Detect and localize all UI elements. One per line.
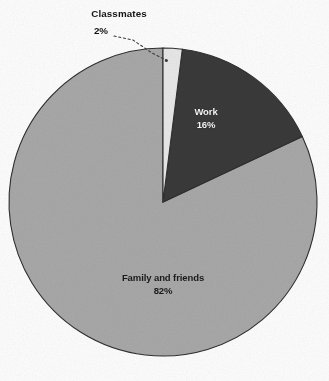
pie-chart-canvas [0,0,329,381]
pie-chart-figure: Classmates 2% Work 16% Family and friend… [0,0,329,381]
figure-caption-strip [0,372,329,381]
pie-label-work: Work 16% [176,106,236,131]
pie-slices-group [9,48,317,356]
pie-label-work-name: Work [176,106,236,119]
pie-label-family-and-friends-percent: 82% [85,285,241,298]
pie-label-classmates-percent: 2% [61,25,141,38]
pie-label-family-and-friends: Family and friends 82% [85,272,241,297]
pie-label-classmates-name: Classmates [61,8,177,21]
pie-label-work-percent: 16% [176,119,236,132]
pie-label-family-and-friends-name: Family and friends [85,272,241,285]
pie-label-classmates: Classmates 2% [61,8,177,38]
